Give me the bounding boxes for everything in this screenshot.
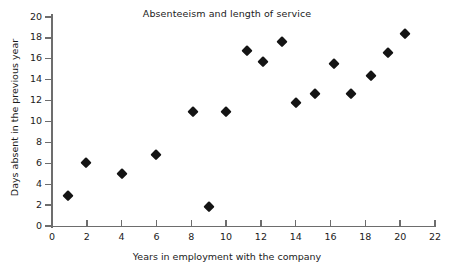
y-axis-tick — [45, 16, 52, 17]
x-axis-tick-label: 18 — [354, 231, 376, 242]
x-axis-tick — [365, 220, 366, 227]
x-axis-tick — [434, 220, 435, 227]
x-axis-tick — [86, 220, 87, 227]
y-axis-tick — [45, 184, 52, 185]
data-point — [257, 56, 269, 68]
x-axis-tick — [399, 220, 400, 227]
x-axis-title: Years in employment with the company — [0, 251, 454, 262]
plot-area — [52, 17, 435, 226]
x-axis-tick-label: 20 — [389, 231, 411, 242]
x-axis-tick — [156, 220, 157, 227]
x-axis-tick — [225, 220, 226, 227]
x-axis-tick-label: 14 — [285, 231, 307, 242]
data-point — [365, 70, 377, 82]
y-axis-tick — [45, 142, 52, 143]
scatter-plot-figure: Absenteeism and length of service Years … — [0, 0, 454, 273]
y-axis-tick — [45, 58, 52, 59]
x-axis-tick-label: 16 — [320, 231, 342, 242]
y-axis-tick — [45, 163, 52, 164]
data-point — [151, 149, 163, 161]
data-point — [203, 201, 215, 213]
x-axis-tick-label: 12 — [250, 231, 272, 242]
data-point — [290, 97, 302, 109]
y-axis-tick-label: 14 — [18, 73, 42, 84]
x-axis-tick-label: 10 — [215, 231, 237, 242]
x-axis-tick — [295, 220, 296, 227]
y-axis-tick — [45, 204, 52, 205]
data-point — [220, 106, 232, 118]
x-axis-tick-label: 6 — [145, 231, 167, 242]
y-axis-tick-label: 6 — [18, 157, 42, 168]
data-point — [80, 157, 92, 169]
data-point — [62, 190, 74, 202]
data-point — [382, 47, 394, 59]
y-axis-tick-label: 20 — [18, 11, 42, 22]
y-axis-tick — [45, 37, 52, 38]
y-axis-tick-label: 2 — [18, 199, 42, 210]
data-point — [116, 168, 128, 180]
y-axis-tick-label: 16 — [18, 52, 42, 63]
y-axis-tick-label: 0 — [18, 220, 42, 231]
x-axis-tick-label: 0 — [41, 231, 63, 242]
x-axis-tick — [51, 220, 52, 227]
x-axis-tick-label: 2 — [76, 231, 98, 242]
data-point — [187, 106, 199, 118]
x-axis-tick — [260, 220, 261, 227]
y-axis-tick-label: 18 — [18, 31, 42, 42]
y-axis-tick — [45, 121, 52, 122]
data-point — [345, 88, 357, 100]
y-axis-tick — [45, 100, 52, 101]
x-axis-tick — [330, 220, 331, 227]
x-axis-tick-label: 4 — [111, 231, 133, 242]
data-point — [309, 88, 321, 100]
data-point — [276, 36, 288, 48]
data-point — [328, 58, 340, 70]
data-point — [241, 46, 253, 58]
x-axis-tick-label: 22 — [424, 231, 446, 242]
y-axis-tick-label: 4 — [18, 178, 42, 189]
data-point — [399, 28, 411, 40]
x-axis-tick-label: 8 — [180, 231, 202, 242]
x-axis-tick — [191, 220, 192, 227]
y-axis-tick-label: 12 — [18, 94, 42, 105]
x-axis-tick — [121, 220, 122, 227]
y-axis-tick-label: 10 — [18, 115, 42, 126]
y-axis-tick-label: 8 — [18, 136, 42, 147]
y-axis-tick — [45, 79, 52, 80]
